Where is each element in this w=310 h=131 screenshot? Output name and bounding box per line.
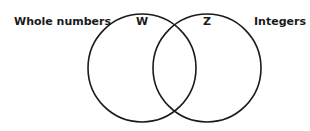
venn-diagram: Whole numbers W Z Integers: [0, 0, 310, 131]
set-z-circle: [153, 14, 261, 122]
set-z-name-label: Integers: [254, 15, 306, 28]
set-w-circle: [88, 14, 196, 122]
set-w-symbol-label: W: [136, 15, 148, 28]
set-z-symbol-label: Z: [203, 15, 211, 28]
set-w-name-label: Whole numbers: [14, 15, 111, 28]
